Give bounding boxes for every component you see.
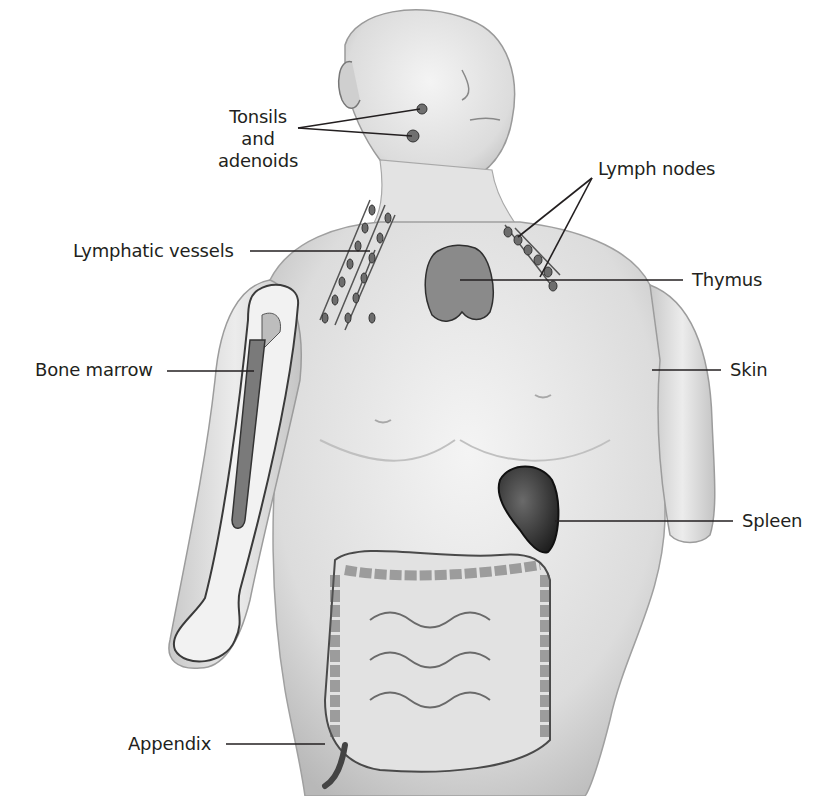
label-skin: Skin bbox=[730, 359, 767, 381]
lymphatic-system-diagram: Tonsils and adenoids Lymph nodes Lymphat… bbox=[0, 0, 826, 796]
label-tonsils-line2: and bbox=[212, 128, 304, 150]
label-spleen: Spleen bbox=[742, 510, 802, 532]
label-lymph-nodes: Lymph nodes bbox=[598, 158, 715, 180]
label-appendix: Appendix bbox=[128, 733, 211, 755]
label-lymphatic-vessels: Lymphatic vessels bbox=[73, 240, 234, 262]
intestines bbox=[325, 551, 550, 786]
label-tonsils-line3: adenoids bbox=[212, 150, 304, 172]
label-thymus: Thymus bbox=[692, 269, 762, 291]
label-tonsils-and-adenoids: Tonsils and adenoids bbox=[212, 106, 304, 172]
head bbox=[339, 10, 515, 189]
label-tonsils-line1: Tonsils bbox=[212, 106, 304, 128]
thymus bbox=[425, 245, 493, 321]
label-bone-marrow: Bone marrow bbox=[35, 359, 153, 381]
body-illustration bbox=[0, 0, 826, 796]
